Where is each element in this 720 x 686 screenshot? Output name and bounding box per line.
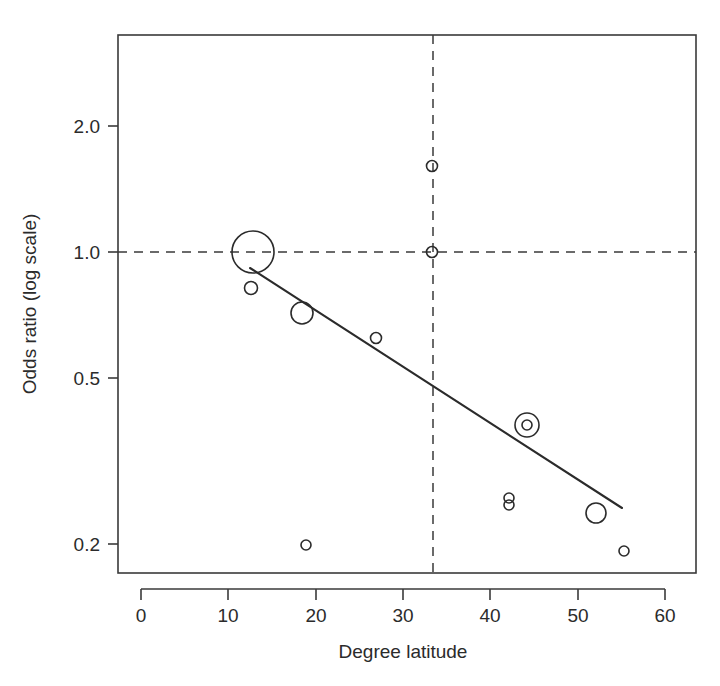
data-point xyxy=(291,302,313,324)
x-axis-tick-label: 0 xyxy=(136,605,147,626)
data-point xyxy=(245,282,258,295)
data-point xyxy=(371,333,382,344)
scatter-plot: 2.0 1.0 0.5 0.2 0 10 20 30 40 50 60 Degr… xyxy=(0,0,720,686)
x-axis-tick-label: 60 xyxy=(654,605,675,626)
data-point xyxy=(619,546,629,556)
x-axis-tick-label: 30 xyxy=(392,605,413,626)
x-axis-tick-label: 10 xyxy=(217,605,238,626)
reference-lines-group xyxy=(118,35,696,573)
data-point xyxy=(427,161,438,172)
data-point xyxy=(515,413,539,437)
y-axis-title: Odds ratio (log scale) xyxy=(19,214,40,395)
data-points-group xyxy=(232,161,629,557)
x-axis-title: Degree latitude xyxy=(339,641,468,662)
data-point xyxy=(301,540,311,550)
data-point xyxy=(522,420,532,430)
y-axis-tick-label: 1.0 xyxy=(74,242,100,263)
y-axis-tick-label: 0.2 xyxy=(74,534,100,555)
x-axis-ticks-group xyxy=(141,589,665,600)
y-axis-ticks-group xyxy=(108,126,118,544)
regression-line xyxy=(250,268,622,508)
x-axis-tick-label: 40 xyxy=(479,605,500,626)
y-axis-tick-label: 2.0 xyxy=(74,116,100,137)
y-axis-tick-label: 0.5 xyxy=(74,368,100,389)
data-point xyxy=(504,500,514,510)
x-axis-tick-label: 50 xyxy=(567,605,588,626)
figure-container: 2.0 1.0 0.5 0.2 0 10 20 30 40 50 60 Degr… xyxy=(0,0,720,686)
data-point xyxy=(586,503,606,523)
x-axis-tick-label: 20 xyxy=(305,605,326,626)
plot-frame xyxy=(118,35,696,573)
